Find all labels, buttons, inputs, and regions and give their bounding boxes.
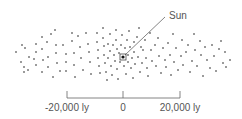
cluster-dot: [33, 58, 34, 59]
cluster-dot: [107, 43, 108, 44]
cluster-dot: [112, 44, 113, 45]
cluster-dot: [196, 65, 197, 66]
cluster-dot: [99, 72, 100, 73]
globular-cluster-diagram: Sun -20,000 ly 0 20,000 ly: [0, 0, 242, 119]
cluster-dot: [52, 76, 53, 77]
cluster-dot: [160, 72, 161, 73]
cluster-dot: [155, 65, 156, 66]
cluster-dot: [27, 69, 28, 70]
cluster-dot: [42, 59, 43, 60]
cluster-dot: [127, 61, 128, 62]
cluster-dot: [132, 77, 133, 78]
cluster-dot: [199, 40, 200, 41]
cluster-dot: [116, 48, 117, 49]
cluster-dot: [150, 49, 151, 50]
cluster-dot: [54, 29, 55, 30]
cluster-dot: [128, 30, 129, 31]
cluster-dot: [115, 29, 116, 30]
cluster-dot: [24, 47, 25, 48]
cluster-dot: [65, 70, 66, 71]
cluster-dot: [157, 37, 158, 38]
cluster-dot: [97, 57, 98, 58]
cluster-dot: [180, 55, 181, 56]
cluster-dot: [177, 69, 178, 70]
cluster-dot: [28, 56, 29, 57]
cluster-dot: [167, 42, 168, 43]
cluster-dot: [131, 57, 132, 58]
cluster-dot: [146, 67, 147, 68]
cluster-dot: [140, 46, 141, 47]
cluster-dot: [222, 62, 223, 63]
cluster-dot: [133, 51, 134, 52]
cluster-dot: [158, 55, 159, 56]
cluster-dot: [47, 56, 48, 57]
cluster-dot: [169, 54, 170, 55]
cluster-dot: [220, 40, 221, 41]
cluster-dot: [110, 65, 111, 66]
cluster-dot: [213, 55, 214, 56]
cluster-dot: [224, 51, 225, 52]
cluster-dot: [71, 40, 72, 41]
cluster-dot: [55, 44, 56, 45]
cluster-dot: [56, 62, 57, 63]
cluster-dot: [41, 71, 42, 72]
cluster-dot: [151, 60, 152, 61]
cluster-dot: [73, 52, 74, 53]
cluster-dot: [136, 36, 137, 37]
cluster-dot: [127, 54, 128, 55]
cluster-dot: [164, 59, 165, 60]
cluster-dot: [130, 67, 131, 68]
cluster-dot: [141, 62, 142, 63]
cluster-dot: [154, 44, 155, 45]
cluster-dot: [15, 51, 16, 52]
cluster-dot: [124, 47, 125, 48]
scale-label-left: -20,000 ly: [45, 102, 89, 113]
cluster-dot: [47, 66, 48, 67]
cluster-dot: [111, 74, 112, 75]
sun-pointer-line: [125, 17, 165, 55]
cluster-dot: [89, 61, 90, 62]
cluster-dot: [103, 45, 104, 46]
cluster-dot: [125, 73, 126, 74]
cluster-dot: [218, 48, 219, 49]
cluster-dot: [88, 51, 89, 52]
cluster-dot: [120, 44, 121, 45]
cluster-dot: [116, 68, 117, 69]
cluster-dot: [147, 75, 148, 76]
cluster-dot: [98, 65, 99, 66]
cluster-dot: [103, 54, 104, 55]
cluster-dot: [79, 46, 80, 47]
cluster-dot: [105, 71, 106, 72]
cluster-dot: [134, 63, 135, 64]
cluster-dot: [165, 66, 166, 67]
cluster-dot: [229, 59, 230, 60]
cluster-dot: [55, 52, 56, 53]
sun-label: Sun: [169, 10, 187, 21]
cluster-dot: [50, 33, 51, 34]
cluster-dot: [119, 61, 120, 62]
cluster-dot: [139, 71, 140, 72]
cluster-dot: [41, 36, 42, 37]
cluster-dot: [96, 41, 97, 42]
cluster-dot: [97, 49, 98, 50]
cluster-dot: [189, 71, 190, 72]
cluster-dot: [144, 39, 145, 40]
cluster-dot: [133, 41, 134, 42]
cluster-dot: [182, 64, 183, 65]
cluster-dot: [200, 54, 201, 55]
cluster-dot: [204, 46, 205, 47]
cluster-dot: [23, 71, 24, 72]
cluster-dot: [206, 59, 207, 60]
cluster-dot: [90, 73, 91, 74]
scale-label-right: 20,000 ly: [160, 102, 201, 113]
cluster-dot: [225, 66, 226, 67]
cluster-dot: [109, 50, 110, 51]
cluster-dot: [126, 39, 127, 40]
cluster-dot: [80, 57, 81, 58]
cluster-dot: [209, 67, 210, 68]
cluster-dot: [162, 47, 163, 48]
cluster-dot: [104, 62, 105, 63]
cluster-dot: [202, 75, 203, 76]
cluster-dot: [85, 32, 86, 33]
cluster-dot: [20, 61, 21, 62]
